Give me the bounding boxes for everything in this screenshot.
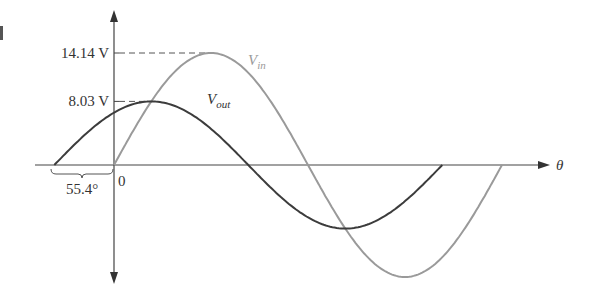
y-ticks: 14.14 V8.03 V (61, 45, 211, 109)
theta-label: θ (556, 157, 564, 173)
y-tick-label: 8.03 V (68, 93, 109, 109)
y-axis-up-arrow-icon (110, 10, 118, 22)
x-axis-arrow-icon (538, 161, 550, 169)
phase-shift-label: 55.4° (66, 181, 98, 197)
origin-label: 0 (118, 173, 126, 189)
phase-shift-chart: 14.14 V8.03 V Vin Vout θ 0 55.4° (0, 0, 595, 305)
vin-label: Vin (248, 52, 266, 71)
y-axis-down-arrow-icon (110, 272, 118, 284)
y-tick-label: 14.14 V (61, 45, 109, 61)
phase-brace (51, 169, 113, 178)
edge-artifact (0, 26, 3, 40)
vout-label: Vout (207, 91, 231, 110)
